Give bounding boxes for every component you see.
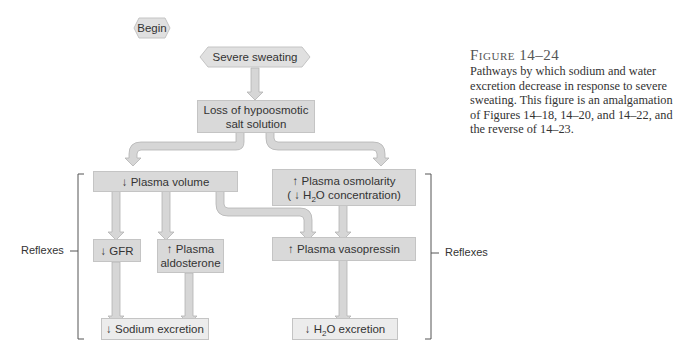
loss-label-line2: salt solution: [226, 117, 287, 131]
h2o-excretion-label: ↓ H2O excretion: [305, 322, 386, 336]
loss-of-salt-solution-node: Loss of hypoosmotic salt solution: [197, 100, 315, 133]
plasma-volume-label: ↓ Plasma volume: [122, 175, 210, 189]
plasma-volume-node: ↓ Plasma volume: [93, 171, 238, 192]
figure-title: Figure 14–24: [470, 47, 559, 64]
begin-label: Begin: [137, 22, 166, 34]
sodium-excretion-label: ↓ Sodium excretion: [106, 322, 204, 336]
gfr-label: ↓ GFR: [100, 244, 133, 258]
h2o-excretion-node: ↓ H2O excretion: [292, 318, 398, 340]
severe-sweating-node: Severe sweating: [199, 46, 311, 68]
aldosterone-label-line2: aldosterone: [160, 256, 220, 270]
begin-node: Begin: [133, 17, 171, 39]
plasma-vasopressin-node: ↑ Plasma vasopressin: [272, 237, 416, 261]
osmolarity-label-line2: ( ↓ H2O concentration): [287, 188, 401, 202]
figure-caption: Pathways by which sodium and water excre…: [470, 64, 682, 137]
plasma-aldosterone-node: ↑ Plasma aldosterone: [157, 239, 224, 273]
plasma-osmolarity-node: ↑ Plasma osmolarity ( ↓ H2O concentratio…: [272, 169, 416, 206]
reflexes-left-label: Reflexes: [21, 244, 64, 256]
loss-label-line1: Loss of hypoosmotic: [204, 103, 309, 117]
osmolarity-label-line1: ↑ Plasma osmolarity: [293, 174, 396, 188]
reflexes-right-label: Reflexes: [445, 246, 488, 258]
gfr-node: ↓ GFR: [93, 239, 141, 262]
severe-sweating-label: Severe sweating: [212, 51, 297, 63]
aldosterone-label-line1: ↑ Plasma: [167, 242, 214, 256]
sodium-excretion-node: ↓ Sodium excretion: [101, 318, 209, 340]
vasopressin-label: ↑ Plasma vasopressin: [288, 242, 400, 256]
